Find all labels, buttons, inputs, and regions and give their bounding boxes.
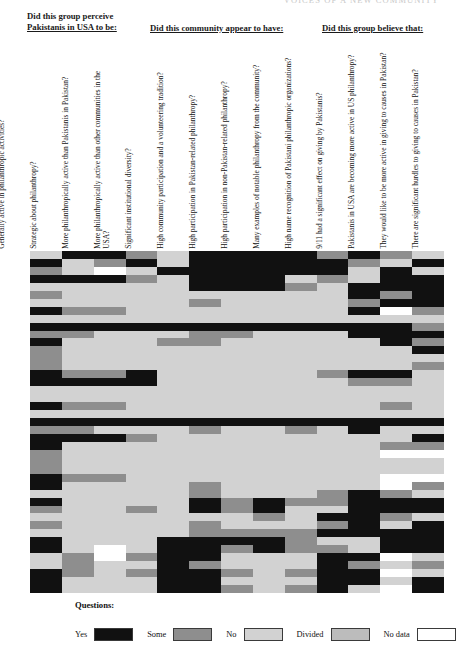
heatmap-cell: [30, 410, 62, 418]
heatmap-cell: [380, 323, 412, 331]
heatmap-cell: [30, 251, 62, 259]
heatmap-cell: [253, 498, 285, 506]
heatmap-cell: [30, 474, 62, 482]
heatmap-cell: [30, 513, 62, 521]
heatmap-cell: [221, 450, 253, 458]
column-label-row: Generally active in philanthropic activi…: [30, 48, 444, 250]
heatmap-cell: [317, 434, 349, 442]
heatmap-cell: [30, 490, 62, 498]
heatmap-cell: [221, 402, 253, 410]
heatmap-cell: [380, 251, 412, 259]
heatmap-cell: [157, 577, 189, 585]
heatmap-cell: [221, 529, 253, 537]
heatmap-cell: [126, 545, 158, 553]
heatmap-cell: [285, 585, 317, 593]
heatmap-cell: [221, 386, 253, 394]
heatmap-cell: [380, 402, 412, 410]
heatmap-cell: [30, 362, 62, 370]
heatmap-cell: [189, 259, 221, 267]
heatmap-cell: [348, 323, 380, 331]
heatmap-cell: [94, 466, 126, 474]
heatmap-cell: [412, 378, 444, 386]
heatmap-cell: [221, 251, 253, 259]
heatmap-cell: [221, 307, 253, 315]
heatmap-cell: [380, 545, 412, 553]
heatmap-cell: [221, 577, 253, 585]
heatmap-cell: [189, 275, 221, 283]
heatmap-cell: [348, 394, 380, 402]
heatmap-cell: [221, 537, 253, 545]
heatmap-cell: [253, 490, 285, 498]
heatmap-cell: [412, 426, 444, 434]
heatmap-cell: [412, 450, 444, 458]
heatmap-cell: [285, 370, 317, 378]
heatmap-cell: [94, 267, 126, 275]
heatmap-cell: [157, 386, 189, 394]
heatmap-cell: [30, 482, 62, 490]
heatmap-cell: [126, 434, 158, 442]
heatmap-cell: [189, 585, 221, 593]
heatmap-cell: [94, 346, 126, 354]
heatmap-cell: [253, 513, 285, 521]
heatmap-cell: [412, 434, 444, 442]
heatmap-cell: [380, 450, 412, 458]
heatmap-cell: [285, 307, 317, 315]
heatmap-cell: [62, 291, 94, 299]
column-label: More philanthropically active than Pakis…: [62, 52, 94, 250]
heatmap-cell: [380, 434, 412, 442]
group-headings: Did this group perceive Pakistanis in US…: [0, 11, 445, 47]
heatmap-cell: [94, 521, 126, 529]
heatmap-cell: [30, 331, 62, 339]
heatmap-cell: [189, 299, 221, 307]
heatmap-cell: [157, 354, 189, 362]
heatmap-cell: [94, 275, 126, 283]
heatmap-cell: [380, 418, 412, 426]
heatmap-cell: [62, 490, 94, 498]
heatmap-cell: [253, 394, 285, 402]
heatmap-cell: [94, 386, 126, 394]
heatmap-cell: [157, 474, 189, 482]
heatmap-cell: [126, 259, 158, 267]
heatmap-cell: [221, 283, 253, 291]
heatmap-cell: [126, 394, 158, 402]
heatmap-cell: [62, 370, 94, 378]
heatmap-cell: [412, 474, 444, 482]
heatmap-cell: [94, 450, 126, 458]
heatmap-cell: [157, 283, 189, 291]
heatmap-cell: [157, 251, 189, 259]
heatmap-cell: [285, 513, 317, 521]
heatmap-cell: [221, 490, 253, 498]
heatmap-cell: [126, 362, 158, 370]
heatmap-cell: [62, 315, 94, 323]
heatmap-cell: [30, 283, 62, 291]
heatmap-cell: [380, 529, 412, 537]
heatmap-cell: [189, 506, 221, 514]
heatmap-cell: [380, 378, 412, 386]
heatmap-cell: [62, 545, 94, 553]
heatmap-cell: [221, 434, 253, 442]
heatmap-cell: [348, 283, 380, 291]
heatmap-cell: [253, 323, 285, 331]
heatmap-cell: [157, 323, 189, 331]
heatmap-cell: [62, 346, 94, 354]
heatmap-cell: [348, 513, 380, 521]
heatmap-cell: [253, 346, 285, 354]
legend-swatch-nodata: [417, 628, 456, 641]
heatmap-cell: [348, 529, 380, 537]
heatmap-cell: [62, 442, 94, 450]
heatmap-cell: [285, 378, 317, 386]
heatmap-cell: [348, 362, 380, 370]
heatmap-cell: [412, 307, 444, 315]
heatmap-cell: [253, 418, 285, 426]
heatmap-cell: [253, 545, 285, 553]
heatmap-cell: [317, 418, 349, 426]
heatmap-cell: [221, 474, 253, 482]
heatmap-cell: [189, 553, 221, 561]
heatmap-cell: [94, 299, 126, 307]
heatmap-cell: [62, 537, 94, 545]
heatmap-cell: [348, 291, 380, 299]
heatmap-cell: [348, 577, 380, 585]
heatmap-cell: [189, 378, 221, 386]
heatmap-cell: [317, 386, 349, 394]
heatmap-cell: [189, 323, 221, 331]
